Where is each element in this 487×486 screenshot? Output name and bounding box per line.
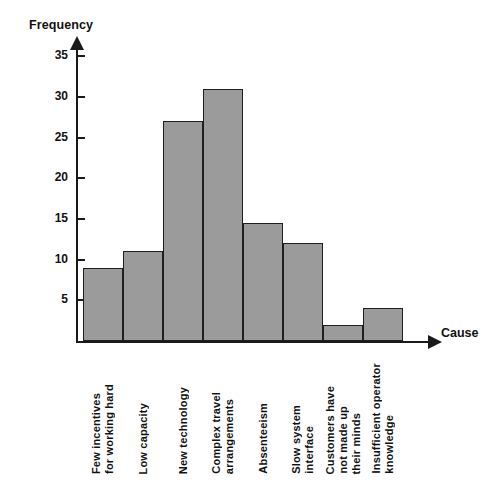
bar[interactable] <box>163 121 203 341</box>
x-axis-category-label: Insufficient operatorknowledge <box>363 346 403 474</box>
x-axis-category-label-lines: Slow systeminterface <box>283 346 323 474</box>
x-axis-category-label-line: Few incentives <box>90 393 103 474</box>
x-axis-category-label: New technology <box>163 346 203 474</box>
y-axis-tick-label: 25 <box>34 130 68 144</box>
y-axis-tick-label: 20 <box>34 170 68 184</box>
bar[interactable] <box>323 325 363 341</box>
x-axis-category-label-line: knowledge <box>383 415 396 474</box>
x-axis-category-label: Customers havenot made uptheir minds <box>323 346 363 474</box>
x-axis-category-label-line: Customers have <box>324 386 337 474</box>
x-axis-category-label: Low capacity <box>123 346 163 474</box>
y-axis-tick-label: 5 <box>34 292 68 306</box>
histogram-chart: Frequency Cause 5101520253035 Few incent… <box>0 0 487 486</box>
y-axis-tick-label: 15 <box>34 211 68 225</box>
y-axis-title: Frequency <box>29 18 93 32</box>
x-axis-line <box>76 341 431 343</box>
x-axis-category-label-line: New technology <box>177 387 190 474</box>
bar[interactable] <box>363 308 403 341</box>
x-axis-category-label-lines: New technology <box>163 346 203 474</box>
bar[interactable] <box>83 268 123 341</box>
x-axis-category-label-lines: Insufficient operatorknowledge <box>363 346 403 474</box>
x-axis-category-label-line: not made up <box>337 406 350 474</box>
bar[interactable] <box>203 89 243 341</box>
x-axis-category-label-line: Slow system <box>290 405 303 474</box>
plot-area <box>83 48 403 341</box>
x-axis-category-label-line: Low capacity <box>137 403 150 474</box>
x-axis-category-label-lines: Low capacity <box>123 346 163 474</box>
bar[interactable] <box>283 243 323 341</box>
x-axis-category-label: Slow systeminterface <box>283 346 323 474</box>
x-axis-category-label-lines: Few incentivesfor working hard <box>83 346 123 474</box>
x-axis-category-label: Absenteeism <box>243 346 283 474</box>
x-axis-category-label-line: Insufficient operator <box>370 363 383 474</box>
y-axis-tick-label: 35 <box>34 48 68 62</box>
x-axis-category-label-lines: Customers havenot made uptheir minds <box>323 346 363 474</box>
x-axis-category-label-line: interface <box>303 426 316 474</box>
x-axis-category-label-line: Complex travel <box>210 392 223 474</box>
x-axis-title: Cause <box>441 326 479 340</box>
x-axis-category-labels: Few incentivesfor working hardLow capaci… <box>83 346 403 474</box>
x-axis-category-label-line: for working hard <box>103 384 116 474</box>
x-axis-arrow-icon <box>428 335 442 349</box>
x-axis-category-label-line: Absenteeism <box>257 403 270 474</box>
y-axis-tick-label: 30 <box>34 89 68 103</box>
x-axis-category-label-line: arrangements <box>223 399 236 474</box>
x-axis-category-label-lines: Complex travelarrangements <box>203 346 243 474</box>
y-axis-tick-label: 10 <box>34 252 68 266</box>
x-axis-category-label-line: their minds <box>350 413 363 475</box>
x-axis-category-label: Few incentivesfor working hard <box>83 346 123 474</box>
bar[interactable] <box>123 251 163 341</box>
bar[interactable] <box>243 223 283 341</box>
x-axis-category-label: Complex travelarrangements <box>203 346 243 474</box>
x-axis-category-label-lines: Absenteeism <box>243 346 283 474</box>
